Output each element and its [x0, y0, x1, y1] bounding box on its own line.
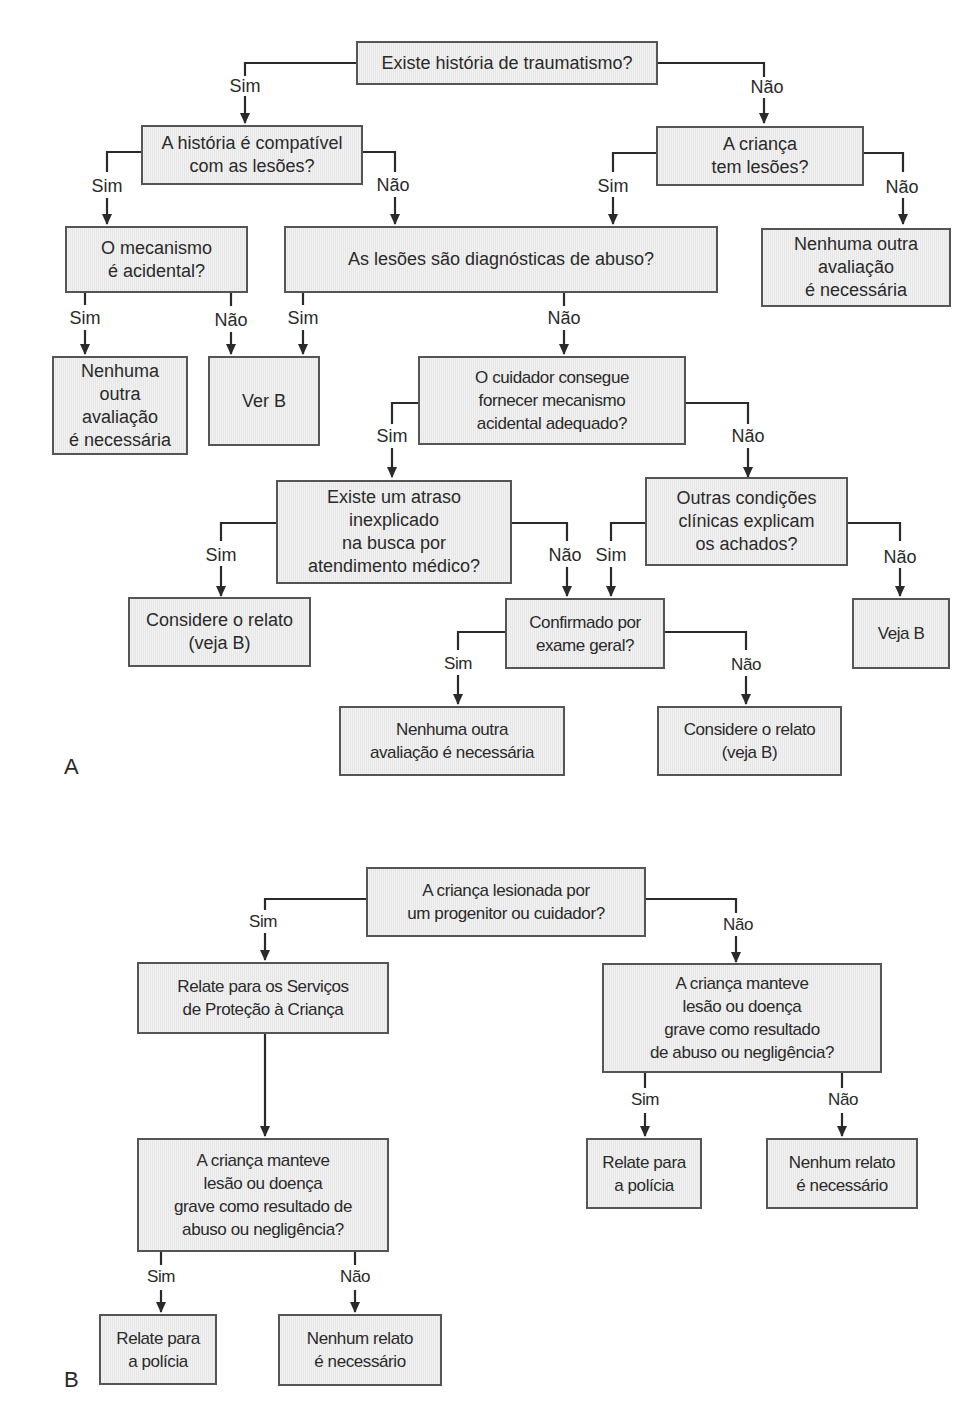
- node-consider-report-1: Considere o relato (veja B): [128, 597, 311, 667]
- edge-label-nao: Não: [827, 1090, 859, 1110]
- node-see-b-2: Veja B: [852, 598, 950, 669]
- node-other-conditions: Outras condições clínicas explicam os ac…: [645, 477, 848, 566]
- edge-label-sim: Sim: [597, 176, 630, 196]
- node-no-further-eval-right: Nenhuma outra avaliação é necessária: [761, 228, 951, 307]
- edge-label-nao: Não: [730, 426, 765, 446]
- edge-label-sim: Sim: [595, 545, 628, 565]
- edge-label-nao: Não: [213, 310, 248, 330]
- node-no-report-left: Nenhum relato é necessário: [278, 1314, 442, 1386]
- edge-label-sim: Sim: [91, 176, 124, 196]
- edge-label-sim: Sim: [248, 912, 278, 932]
- node-injured-by-caregiver: A criança lesionada por um progenitor ou…: [366, 867, 646, 937]
- node-no-report-right: Nenhum relato é necessário: [766, 1138, 918, 1209]
- edge-label-nao: Não: [339, 1267, 371, 1287]
- edge-label-sim: Sim: [69, 308, 102, 328]
- node-report-cps: Relate para os Serviços de Proteção à Cr…: [137, 962, 389, 1034]
- edge-label-sim: Sim: [376, 426, 409, 446]
- edge-label-sim: Sim: [287, 308, 320, 328]
- panel-label-b: B: [64, 1367, 79, 1393]
- node-consider-report-2: Considere o relato (veja B): [657, 706, 842, 776]
- node-unexplained-delay: Existe um atraso inexplicado na busca po…: [276, 480, 512, 584]
- edge-label-sim: Sim: [205, 545, 238, 565]
- node-see-b-1: Ver B: [208, 356, 320, 446]
- edge-label-sim: Sim: [443, 654, 473, 674]
- edge-label-nao: Não: [730, 655, 762, 675]
- node-history-compatible: A história é compatível com as lesões?: [141, 125, 363, 185]
- node-serious-injury-left: A criança manteve lesão ou doença grave …: [137, 1138, 389, 1252]
- panel-label-a: A: [64, 754, 79, 780]
- edge-label-nao: Não: [884, 177, 919, 197]
- edge-label-nao: Não: [375, 175, 410, 195]
- edge-label-sim: Sim: [630, 1090, 660, 1110]
- node-history-of-trauma: Existe história de traumatismo?: [356, 41, 658, 85]
- node-confirmed-by-exam: Confirmado por exame geral?: [505, 598, 665, 669]
- node-caregiver-mechanism: O cuidador consegue fornecer mecanismo a…: [418, 356, 686, 445]
- node-serious-injury-right: A criança manteve lesão ou doença grave …: [602, 963, 882, 1073]
- node-injuries-diagnostic: As lesões são diagnósticas de abuso?: [284, 226, 718, 293]
- edge-label-sim: Sim: [229, 76, 262, 96]
- edge-label-nao: Não: [547, 545, 582, 565]
- edge-label-nao: Não: [749, 77, 784, 97]
- edge-label-sim: Sim: [146, 1267, 176, 1287]
- edge-label-nao: Não: [882, 547, 917, 567]
- node-report-police-left: Relate para a polícia: [99, 1314, 217, 1385]
- node-mechanism-accidental: O mecanismo é acidental?: [65, 226, 248, 293]
- edge-label-nao: Não: [546, 308, 581, 328]
- node-no-further-eval-left: Nenhuma outra avaliação é necessária: [52, 356, 188, 455]
- edge-label-nao: Não: [722, 915, 754, 935]
- node-child-has-injuries: A criança tem lesões?: [656, 126, 864, 186]
- node-no-further-eval-bottom: Nenhuma outra avaliação é necessária: [339, 706, 565, 776]
- node-report-police-right: Relate para a polícia: [586, 1138, 702, 1209]
